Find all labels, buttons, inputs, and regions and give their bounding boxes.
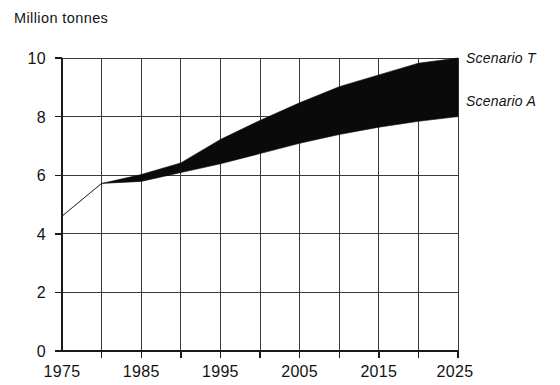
series-label-scenario-t: Scenario T <box>466 50 537 66</box>
x-axis-label-1995: 1995 <box>202 363 239 380</box>
y-axis-label-4: 4 <box>37 226 46 243</box>
series-label-scenario-a: Scenario A <box>466 93 536 109</box>
x-axis-label-2005: 2005 <box>281 363 318 380</box>
y-axis-tickmarks <box>55 58 62 351</box>
x-axis-labels: 1975 1985 1995 2005 2015 2025 <box>44 363 474 380</box>
y-axis-label-6: 6 <box>37 167 46 184</box>
series-annotations: Scenario T Scenario A <box>466 50 537 109</box>
y-axis-label-2: 2 <box>37 284 46 301</box>
x-axis-tickmarks <box>102 351 458 358</box>
y-axis-label-10: 10 <box>28 50 46 67</box>
chart-figure: Million tonnes <box>0 0 560 385</box>
x-axis-label-1985: 1985 <box>123 363 160 380</box>
y-axis-labels: 10 8 6 4 2 0 <box>28 50 46 360</box>
x-axis-label-2025: 2025 <box>437 363 474 380</box>
y-axis-label-8: 8 <box>37 109 46 126</box>
x-axis-label-1975: 1975 <box>44 363 81 380</box>
y-axis-label-0: 0 <box>37 343 46 360</box>
x-axis-label-2015: 2015 <box>360 363 397 380</box>
chart-plot-area: 10 8 6 4 2 0 1975 1985 1995 2005 2015 20… <box>0 0 560 385</box>
